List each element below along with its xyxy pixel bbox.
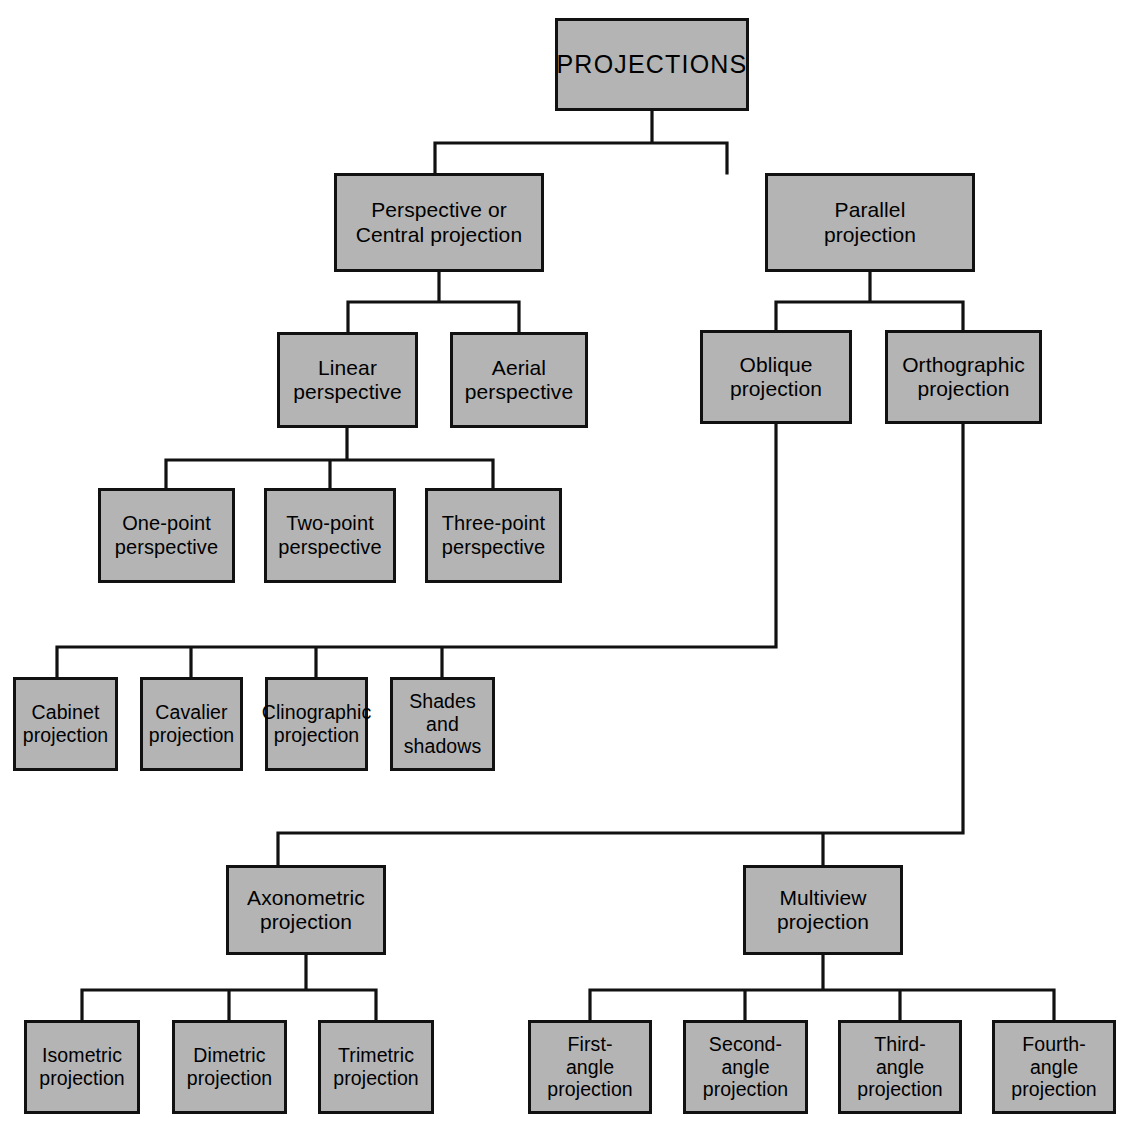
node-label: Isometric projection bbox=[39, 1044, 125, 1089]
node-label: Oblique projection bbox=[730, 353, 822, 402]
node-label: Three-point perspective bbox=[442, 512, 545, 558]
node-axonometric[interactable]: Axonometric projection bbox=[226, 865, 386, 955]
node-label: Aerial perspective bbox=[465, 356, 574, 405]
node-fourth-angle[interactable]: Fourth- angle projection bbox=[992, 1020, 1116, 1114]
node-label: Axonometric projection bbox=[247, 886, 365, 935]
node-label: Clinographic projection bbox=[262, 701, 372, 746]
connector-path bbox=[166, 428, 493, 488]
node-label: Perspective or Central projection bbox=[356, 198, 522, 247]
node-projections[interactable]: PROJECTIONS bbox=[555, 18, 749, 111]
connector-path bbox=[590, 955, 1054, 1020]
connector-path bbox=[435, 111, 727, 173]
node-label: Cabinet projection bbox=[23, 701, 109, 746]
node-one-point[interactable]: One-point perspective bbox=[98, 488, 235, 583]
node-label: Linear perspective bbox=[293, 356, 402, 405]
node-trimetric[interactable]: Trimetric projection bbox=[318, 1020, 434, 1114]
node-label: First- angle projection bbox=[547, 1033, 633, 1101]
projections-diagram-canvas: PROJECTIONSPerspective or Central projec… bbox=[0, 0, 1127, 1139]
node-label: Parallel projection bbox=[824, 198, 916, 247]
node-cavalier[interactable]: Cavalier projection bbox=[140, 677, 243, 771]
node-aerial[interactable]: Aerial perspective bbox=[450, 332, 588, 428]
node-label: Dimetric projection bbox=[187, 1044, 273, 1089]
node-parallel[interactable]: Parallel projection bbox=[765, 173, 975, 272]
node-oblique[interactable]: Oblique projection bbox=[700, 330, 852, 424]
node-label: PROJECTIONS bbox=[557, 50, 748, 79]
node-orthographic[interactable]: Orthographic projection bbox=[885, 330, 1042, 424]
node-label: Multiview projection bbox=[777, 886, 869, 935]
connector-path bbox=[348, 272, 519, 332]
node-shades[interactable]: Shades and shadows bbox=[390, 677, 495, 771]
node-clinographic[interactable]: Clinographic projection bbox=[265, 677, 368, 771]
node-label: Cavalier projection bbox=[149, 701, 235, 746]
connector-path bbox=[82, 955, 376, 1020]
node-second-angle[interactable]: Second- angle projection bbox=[683, 1020, 808, 1114]
node-first-angle[interactable]: First- angle projection bbox=[528, 1020, 652, 1114]
node-cabinet[interactable]: Cabinet projection bbox=[13, 677, 118, 771]
node-label: Trimetric projection bbox=[333, 1044, 419, 1089]
node-label: Third- angle projection bbox=[857, 1033, 943, 1101]
node-label: Two-point perspective bbox=[278, 512, 381, 558]
node-label: Shades and shadows bbox=[395, 690, 490, 758]
node-dimetric[interactable]: Dimetric projection bbox=[172, 1020, 287, 1114]
node-linear[interactable]: Linear perspective bbox=[277, 332, 418, 428]
node-label: Fourth- angle projection bbox=[1011, 1033, 1097, 1101]
node-multiview[interactable]: Multiview projection bbox=[743, 865, 903, 955]
node-label: Second- angle projection bbox=[703, 1033, 789, 1101]
node-three-point[interactable]: Three-point perspective bbox=[425, 488, 562, 583]
connector-path bbox=[776, 272, 963, 330]
node-isometric[interactable]: Isometric projection bbox=[24, 1020, 140, 1114]
node-label: Orthographic projection bbox=[902, 353, 1025, 402]
node-label: One-point perspective bbox=[115, 512, 218, 558]
node-perspective[interactable]: Perspective or Central projection bbox=[334, 173, 544, 272]
node-two-point[interactable]: Two-point perspective bbox=[264, 488, 396, 583]
node-third-angle[interactable]: Third- angle projection bbox=[838, 1020, 962, 1114]
